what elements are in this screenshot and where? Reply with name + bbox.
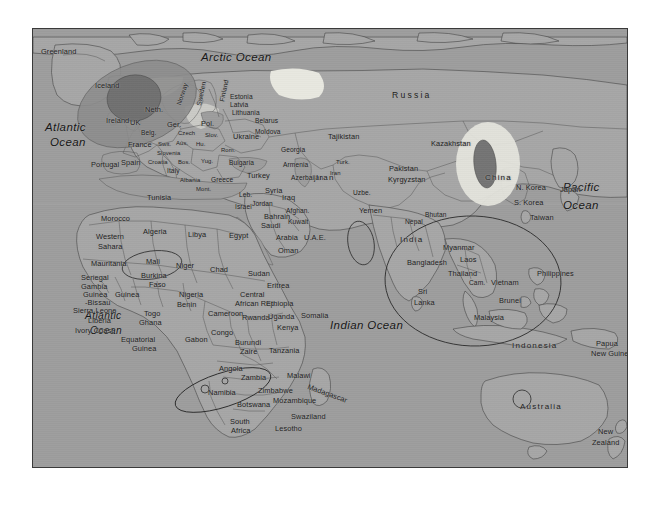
country-label-south-africa-2: Africa [231,427,251,435]
country-label-bosnia: Bos. [178,159,190,165]
country-label-estonia: Estonia [230,94,253,101]
country-label-uae: Arabia [276,234,298,242]
country-label-philippines: Philippines [537,270,574,278]
country-label-israel: Israel [235,204,252,211]
ocean-label-indian: Indian Ocean [330,320,403,332]
country-label-iran: Iran [316,174,335,182]
country-label-pakistan: Yemen [359,207,382,215]
country-label-swaziland: Swaziland [291,413,326,421]
country-label-zaire: Zaire [240,348,257,356]
country-label-lebanon: Leb. [239,192,252,199]
country-label-ethiopia: Ethiopia [266,300,294,308]
country-label-new-zealand-1: New [598,428,613,436]
country-label-indonesia: Indonesia [512,342,558,350]
country-label-rwanda: Rwanda [242,314,270,322]
country-label-lithuania: Lithuania [232,110,260,117]
country-label-germany: Ger. [167,121,181,129]
screenshot-root: .land{fill:#a6a6a6;stroke:#3c3c3c;stroke… [0,0,664,522]
country-label-equatorial-guinea-2: Guinea [132,345,156,353]
country-label-sierra-leone: Sierra Leone [73,307,117,315]
country-label-tanzania: Tanzania [269,347,299,355]
world-map-figure: .land{fill:#a6a6a6;stroke:#3c3c3c;stroke… [32,28,628,468]
country-label-yemen: Oman [278,247,299,255]
country-label-cameroon: Cameroon [208,310,243,318]
ocean-label-atlantic-north-2: Ocean [50,137,86,149]
country-label-bulgaria: Bulgaria [229,160,254,167]
country-label-saudi-1: Bahrain [264,213,290,221]
country-label-namibia: Namibia [208,389,236,397]
country-label-eritrea: Eritrea [267,282,289,290]
ocean-label-pacific-2: Ocean [563,200,599,212]
country-label-spain: Spain [121,159,140,167]
country-label-togo: Togo [144,310,160,318]
country-label-poland: Pol. [201,120,214,128]
country-label-lesotho: Lesotho [275,425,302,433]
country-label-zimbabwe: Zimbabwe [258,387,293,395]
country-label-tajikistan: Kyrgyzstan [388,176,426,184]
country-label-slovakia: Slov. [205,132,218,138]
country-label-armenia: Armenia [283,162,308,169]
country-label-liberia: Liberia [88,317,111,325]
country-label-slovenia: Slovenia [157,150,180,156]
country-label-somalia: Somalia [301,312,328,320]
country-label-mali: Mali [146,258,160,266]
country-label-syria: Syria [265,187,282,195]
country-label-ivory-coast: Ivory Coast [75,327,113,335]
country-label-guinea: Guinea [115,291,139,299]
country-label-south-africa-1: South [230,418,250,426]
country-label-uk: UK [130,119,140,127]
country-label-india: India [400,236,423,244]
country-label-algeria: Algeria [143,228,167,236]
country-label-morocco: Morocco [101,215,130,223]
country-label-western-sahara-1: Western [96,233,124,241]
country-label-kyrgyzstan: Pakistan [389,165,418,173]
country-label-laos: Laos [460,256,476,264]
country-label-north-korea: N. Korea [516,184,546,192]
country-label-tunisia: Tunisia [147,194,171,202]
country-label-greece: Greece [211,177,233,184]
country-label-equatorial-guinea-1: Equatorial [121,336,155,344]
country-label-georgia: Georgia [281,147,305,154]
country-label-south-korea: S. Korea [514,199,544,207]
country-label-gabon: Gabon [185,336,208,344]
country-label-burundi: Burundi [235,339,261,347]
country-label-iceland: Iceland [95,82,120,90]
country-label-sudan: Sudan [248,270,270,278]
country-label-uganda: Uganda [268,313,295,321]
country-label-kenya: Kenya [277,324,298,332]
country-label-mauritania: Mauritania [91,260,127,268]
country-label-malaysia: Malaysia [474,314,504,322]
country-label-malawi: Malawi [287,372,311,380]
country-label-congo: Congo [211,329,233,337]
country-label-romania: Rom. [221,147,235,153]
country-label-benin: Benin [177,301,196,309]
country-label-latvia: Latvia [230,102,248,109]
country-label-oman: U.A.E. [304,234,326,242]
country-label-kazakhstan: Tajikistan [328,133,359,141]
country-label-hungary: Hu. [196,141,205,147]
country-label-libya: Libya [188,231,206,239]
country-label-thailand: Thailand [448,270,477,278]
country-label-cambodia: Cam. [469,280,485,287]
ocean-label-atlantic-north-1: Atlantic [45,122,86,134]
country-label-moldova: Moldova [255,129,281,136]
country-label-western-sahara-2: Sahara [98,243,122,251]
country-label-vietnam: Vietnam [491,279,519,287]
country-label-botswana: Botswana [237,401,270,409]
country-label-burkina-1: Burkina [141,272,167,280]
country-label-bhutan: Bhutan [425,212,447,219]
country-label-yugoslavia: Yug. [201,158,213,164]
country-label-senegal: Senegal [81,274,109,282]
country-label-burkina-2: Faso [149,281,166,289]
country-label-brunei: Brunei [499,297,521,305]
country-label-albania: Albania [180,177,200,183]
country-label-australia: Australia [520,403,562,411]
country-label-papua-1: Papua [596,340,618,348]
country-label-austria: Aus. [176,140,188,146]
country-label-afghanistan: Uzbe. [353,190,371,197]
country-label-china: China [485,174,512,182]
country-label-sri-2: Lanka [414,299,435,307]
country-label-saudi-2: Saudi [261,222,280,230]
country-label-bahrain: Kuwait [288,219,308,226]
country-label-papua-2: New Guinea [591,350,628,358]
